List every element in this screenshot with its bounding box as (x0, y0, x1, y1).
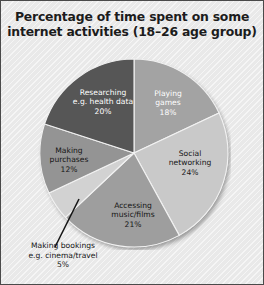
slice-label-accessing-music-films: Accessing music/films 21% (94, 201, 172, 229)
slice-label-making-purchases: Making purchases 12% (33, 146, 105, 174)
slice-label-line-1: Making bookings (3, 241, 123, 251)
slice-label-value: 20% (54, 107, 152, 116)
pie-chart-figure: Percentage of time spent on some interne… (0, 0, 264, 285)
slice-label-value: 12% (33, 165, 105, 174)
slice-label-line-2: e.g. health data (54, 97, 152, 106)
slice-label-making-bookings: Making bookings e.g. cinema/travel 5% (3, 241, 123, 270)
slice-label-social-networking: Social networking 24% (159, 149, 221, 177)
slice-label-line-2: networking (159, 158, 221, 167)
slice-label-value: 24% (159, 168, 221, 177)
slice-label-line-2: purchases (33, 155, 105, 164)
slice-label-line-2: e.g. cinema/travel (3, 251, 123, 261)
slice-label-line-1: Social (159, 149, 221, 158)
slice-label-line-1: Researching (54, 88, 152, 97)
chart-title-line-2: internet activities (18–26 age group) (7, 24, 257, 39)
slice-label-value: 5% (3, 260, 123, 270)
slice-label-line-1: Accessing (94, 201, 172, 210)
slice-label-value: 21% (94, 220, 172, 229)
slice-label-researching-health-data: Researching e.g. health data 20% (54, 88, 152, 116)
chart-title: Percentage of time spent on some interne… (7, 9, 257, 39)
chart-title-line-1: Percentage of time spent on some (7, 9, 257, 24)
slice-label-line-2: music/films (94, 210, 172, 219)
slice-label-line-1: Making (33, 146, 105, 155)
